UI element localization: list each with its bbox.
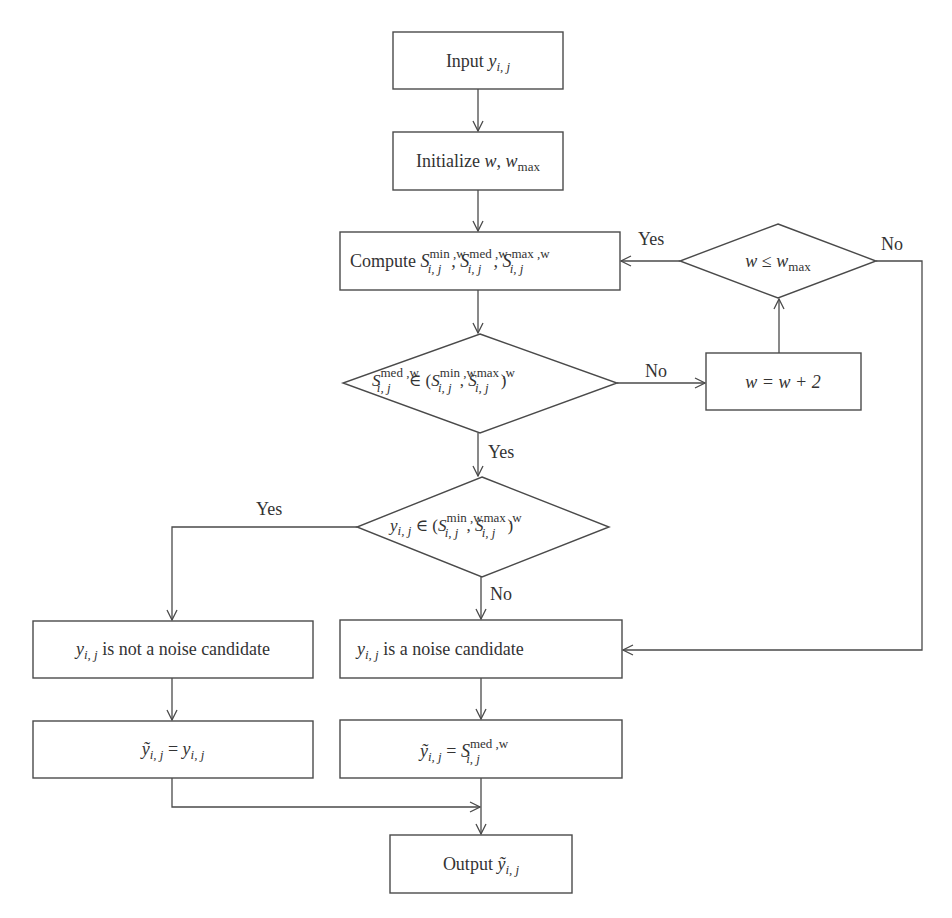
node-check-wmax: w ≤ wmax — [680, 224, 876, 298]
node-not-noise-candidate: yi, j is not a noise candidate — [33, 621, 313, 678]
label-wmax-no: No — [881, 234, 903, 254]
node-initialize: Initialize w, wmax — [393, 132, 563, 190]
edge-check-wmax-no — [623, 261, 922, 650]
node-assign-median: ỹi, j = Smed ,wi, j — [340, 720, 622, 778]
node-check-median: Smed ,wi, j ∈ (Smin ,wi, j, Smax ,wi, j) — [343, 334, 617, 433]
label-median-yes: Yes — [488, 442, 514, 462]
flowchart-canvas: Input yi, j Initialize w, wmax Compute S… — [0, 0, 952, 918]
label-wmax-yes: Yes — [638, 229, 664, 249]
label-median-no: No — [645, 361, 667, 381]
node-check-y: yi, j ∈ (Smin ,wi, j, Smax ,wi, j) — [357, 477, 609, 577]
node-output: Output ỹi, j — [390, 835, 572, 893]
node-increment-w-label: w = w + 2 — [745, 372, 820, 392]
edge-assign-y-to-output — [172, 778, 480, 807]
node-input: Input yi, j — [393, 32, 563, 89]
node-compute: Compute Smin ,wi, j, Smed ,wi, j, Smax ,… — [340, 232, 620, 290]
label-y-no: No — [490, 584, 512, 604]
node-increment-w: w = w + 2 — [706, 353, 861, 410]
node-noise-candidate: yi, j is a noise candidate — [340, 620, 622, 678]
node-noise-candidate-label: yi, j is a noise candidate — [355, 639, 524, 662]
edge-check-y-yes — [172, 527, 357, 620]
node-not-noise-candidate-label: yi, j is not a noise candidate — [74, 639, 270, 662]
label-y-yes: Yes — [256, 499, 282, 519]
node-assign-original: ỹi, j = yi, j — [33, 721, 313, 778]
